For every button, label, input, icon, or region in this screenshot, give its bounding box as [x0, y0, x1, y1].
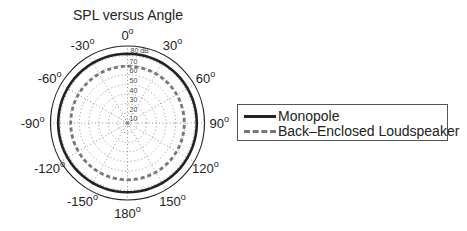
angle-label: 30o [163, 36, 182, 53]
legend: Monopole Back–Enclosed Loudspeaker [237, 104, 448, 141]
radial-tick-label: 30 [130, 96, 138, 103]
angle-label: -120o [34, 159, 65, 176]
legend-item-back-enclosed: Back–Enclosed Loudspeaker [244, 124, 459, 138]
grid-spoke [128, 85, 195, 124]
legend-label: Back–Enclosed Loudspeaker [278, 124, 459, 138]
angle-label: 90o [210, 114, 229, 131]
legend-label: Monopole [278, 109, 340, 123]
grid-spoke [128, 123, 167, 190]
angle-label: 150o [159, 192, 186, 209]
angle-label: -90o [21, 114, 45, 131]
angle-label: -150o [67, 192, 98, 209]
radial-tick-label: 40 [130, 87, 138, 94]
angle-label: 120o [192, 159, 219, 176]
angle-label: -30o [71, 36, 95, 53]
chart-title: SPL versus Angle [73, 7, 183, 23]
solid-line-swatch-icon [244, 115, 276, 118]
polar-grid: 1020304050607080 dB [51, 46, 205, 200]
radial-tick-label: 10 [130, 115, 138, 122]
radial-tick-label: 50 [130, 77, 138, 84]
radial-tick-label: 70 [130, 58, 138, 65]
angle-label: 180o [114, 204, 141, 221]
dashed-line-swatch-icon [244, 130, 276, 133]
legend-item-monopole: Monopole [244, 109, 340, 123]
angle-label: 0o [121, 26, 133, 43]
angle-label: -60o [38, 69, 62, 86]
radial-tick-label: 20 [130, 106, 138, 113]
angle-label: 60o [196, 69, 215, 86]
